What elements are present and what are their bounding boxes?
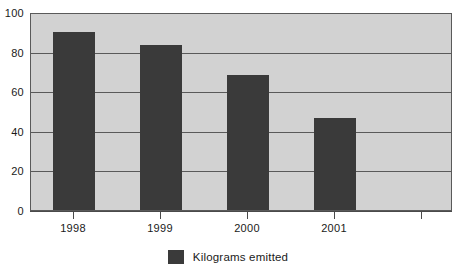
- x-tick-label-2000: 2000: [217, 222, 277, 234]
- y-tick-label-60: 60: [0, 87, 24, 98]
- y-tick-label-40: 40: [0, 127, 24, 138]
- plot-area: [30, 13, 452, 211]
- x-tick-mark-empty: [421, 212, 422, 219]
- bar-2000: [227, 75, 269, 210]
- x-tick-mark-1999: [160, 212, 161, 219]
- bar-1998: [53, 32, 95, 210]
- x-tick-label-1998: 1998: [43, 222, 103, 234]
- x-tick-mark-1998: [73, 212, 74, 219]
- y-tick-label-100: 100: [0, 8, 24, 19]
- x-tick-label-2001: 2001: [304, 222, 364, 234]
- x-tick-mark-2000: [247, 212, 248, 219]
- y-tick-label-0: 0: [0, 206, 24, 217]
- bar-chart-figure: 100 80 60 40 20 0 1998 1999 2000 2001 Ki…: [0, 0, 456, 271]
- legend-label-kilograms-emitted: Kilograms emitted: [193, 250, 288, 264]
- legend-swatch-icon: [168, 250, 184, 264]
- bar-1999: [140, 45, 182, 210]
- x-tick-label-1999: 1999: [130, 222, 190, 234]
- chart-legend: Kilograms emitted: [0, 250, 456, 264]
- x-axis-line: [30, 211, 452, 212]
- x-tick-mark-2001: [334, 212, 335, 219]
- y-tick-label-20: 20: [0, 166, 24, 177]
- bar-2001: [314, 118, 356, 210]
- y-tick-label-80: 80: [0, 48, 24, 59]
